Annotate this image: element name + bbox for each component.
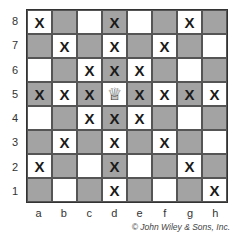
attack-mark: X — [59, 38, 69, 55]
square-g4 — [177, 106, 202, 130]
rank-label-7: 7 — [9, 33, 21, 57]
rank-labels: 87654321 — [9, 9, 21, 203]
square-h7 — [202, 34, 227, 58]
square-a7 — [27, 34, 52, 58]
square-f1 — [152, 178, 177, 202]
square-g2: X — [177, 154, 202, 178]
square-e6: X — [127, 58, 152, 82]
square-a5: X — [27, 82, 52, 106]
square-f3: X — [152, 130, 177, 154]
square-a6 — [27, 58, 52, 82]
attack-mark: X — [109, 158, 119, 175]
attack-mark: X — [184, 14, 194, 31]
square-b2 — [52, 154, 77, 178]
attack-mark: X — [109, 134, 119, 151]
square-e4: X — [127, 106, 152, 130]
square-d7: X — [102, 34, 127, 58]
square-a3 — [27, 130, 52, 154]
file-label-d: d — [102, 206, 127, 220]
square-h8 — [202, 10, 227, 34]
attack-mark: X — [109, 38, 119, 55]
attack-mark: X — [34, 86, 44, 103]
square-b8 — [52, 10, 77, 34]
square-f6 — [152, 58, 177, 82]
rank-label-5: 5 — [9, 82, 21, 106]
square-f5: X — [152, 82, 177, 106]
rank-label-1: 1 — [9, 179, 21, 203]
square-b6 — [52, 58, 77, 82]
attack-mark: X — [34, 158, 44, 175]
square-d6: X — [102, 58, 127, 82]
square-e1 — [127, 178, 152, 202]
square-b7: X — [52, 34, 77, 58]
square-e3 — [127, 130, 152, 154]
square-c7 — [77, 34, 102, 58]
attack-mark: X — [159, 38, 169, 55]
attack-mark: X — [159, 86, 169, 103]
square-d5: ♕ — [102, 82, 127, 106]
square-e2 — [127, 154, 152, 178]
attack-mark: X — [184, 86, 194, 103]
square-c2 — [77, 154, 102, 178]
square-b5: X — [52, 82, 77, 106]
file-label-f: f — [152, 206, 177, 220]
attack-mark: X — [209, 182, 219, 199]
square-d3: X — [102, 130, 127, 154]
square-e5: X — [127, 82, 152, 106]
square-c1 — [77, 178, 102, 202]
attack-mark: X — [159, 134, 169, 151]
rank-label-3: 3 — [9, 130, 21, 154]
file-label-b: b — [51, 206, 76, 220]
square-h6 — [202, 58, 227, 82]
square-g6 — [177, 58, 202, 82]
attack-mark: X — [34, 14, 44, 31]
attack-mark: X — [109, 182, 119, 199]
file-label-h: h — [203, 206, 228, 220]
attack-mark: X — [134, 110, 144, 127]
square-d4: X — [102, 106, 127, 130]
attack-mark: X — [84, 110, 94, 127]
copyright-credit: © John Wiley & Sons, Inc. — [132, 222, 230, 232]
square-a1 — [27, 178, 52, 202]
square-c3 — [77, 130, 102, 154]
attack-mark: X — [109, 62, 119, 79]
square-g7 — [177, 34, 202, 58]
square-d8: X — [102, 10, 127, 34]
file-label-g: g — [178, 206, 203, 220]
square-c6: X — [77, 58, 102, 82]
square-h4 — [202, 106, 227, 130]
attack-mark: X — [134, 62, 144, 79]
square-f2 — [152, 154, 177, 178]
square-c4: X — [77, 106, 102, 130]
square-h1: X — [202, 178, 227, 202]
attack-mark: X — [184, 158, 194, 175]
attack-mark: X — [209, 86, 219, 103]
attack-mark: X — [109, 14, 119, 31]
queen-icon: ♕ — [107, 86, 122, 103]
attack-mark: X — [59, 86, 69, 103]
attack-mark: X — [109, 110, 119, 127]
square-f4 — [152, 106, 177, 130]
attack-mark: X — [134, 86, 144, 103]
square-d2: X — [102, 154, 127, 178]
square-a4 — [27, 106, 52, 130]
square-a2: X — [27, 154, 52, 178]
rank-label-4: 4 — [9, 106, 21, 130]
square-e8 — [127, 10, 152, 34]
attack-mark: X — [59, 134, 69, 151]
square-g1 — [177, 178, 202, 202]
file-label-c: c — [77, 206, 102, 220]
square-g3 — [177, 130, 202, 154]
square-g5: X — [177, 82, 202, 106]
square-c5: X — [77, 82, 102, 106]
attack-mark: X — [84, 62, 94, 79]
rank-label-8: 8 — [9, 9, 21, 33]
rank-label-2: 2 — [9, 155, 21, 179]
square-e7 — [127, 34, 152, 58]
square-d1: X — [102, 178, 127, 202]
square-h2 — [202, 154, 227, 178]
square-a8: X — [27, 10, 52, 34]
square-g8: X — [177, 10, 202, 34]
square-f7: X — [152, 34, 177, 58]
square-c8 — [77, 10, 102, 34]
